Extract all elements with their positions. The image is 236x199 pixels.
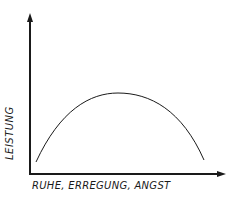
- y-axis-arrow-icon: [27, 13, 33, 22]
- y-axis-label: LEISTUNG: [4, 106, 15, 160]
- chart-canvas: [0, 0, 236, 199]
- x-axis-label: RUHE, ERREGUNG, ANGST: [32, 180, 170, 191]
- performance-curve: [36, 93, 204, 162]
- x-axis-arrow-icon: [217, 171, 226, 177]
